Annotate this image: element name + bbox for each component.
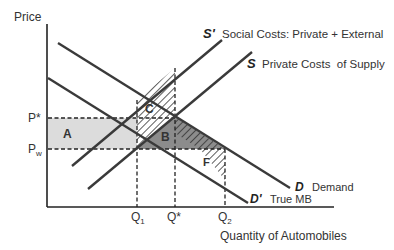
area-a-label: A [63, 127, 72, 141]
quantity-tick-q2: Q2 [218, 210, 232, 226]
price-tick-pw: Pw [28, 142, 42, 158]
price-tick-p-star: P* [28, 111, 41, 125]
quantity-tick-q1: Q1 [131, 210, 145, 226]
quantity-tick-q-star: Q* [167, 210, 181, 224]
s-prime-symbol: S' [203, 26, 216, 41]
x-axis-label: Quantity of Automobiles [220, 229, 347, 243]
externality-diagram: A B C F Price Quantity of Automobiles P*… [0, 0, 394, 250]
s-symbol: S [247, 56, 256, 71]
d-description: Demand [312, 181, 354, 193]
s-description: Private Costs of Supply [262, 58, 385, 70]
y-axis-label: Price [14, 10, 42, 24]
area-c-label: C [145, 102, 154, 116]
d-prime-description: True MB [270, 193, 312, 205]
d-symbol: D [295, 180, 304, 194]
area-f-label: F [203, 156, 210, 168]
area-b-label: B [161, 130, 170, 144]
s-prime-description: Social Costs: Private + External [222, 28, 383, 40]
d-prime-symbol: D' [250, 192, 263, 206]
